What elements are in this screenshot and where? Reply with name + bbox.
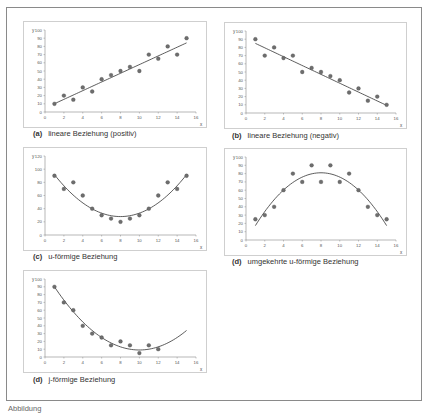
chart-a: 01020304050607080901000246810121416yx [23,21,207,128]
y-tick-label: 90 [238,163,243,168]
x-tick-label: 14 [175,360,180,365]
data-point [147,53,151,57]
data-point [385,217,389,221]
x-tick-label: 16 [194,360,199,365]
data-point [166,180,170,184]
y-tick-label: 40 [238,78,243,83]
y-tick-label: 80 [37,44,42,49]
data-point [109,343,113,347]
y-tick-label: 30 [37,85,42,90]
figure-caption: Abbildung [8,404,41,413]
data-point [128,217,132,221]
data-point [375,213,379,217]
x-tick-label: 6 [100,360,103,365]
x-tick-label: 0 [245,243,248,248]
data-point [253,37,257,41]
data-point [137,213,141,217]
y-tick-label: 10 [238,229,243,234]
x-axis-label: x [400,123,403,128]
y-tick-label: 10 [238,102,243,107]
panel-label-b: (b)lineare Beziehung (negativ) [232,131,339,140]
y-tick-label: 0 [40,233,43,238]
y-tick-label: 60 [238,61,243,66]
x-tick-label: 2 [63,360,66,365]
data-point [338,180,342,184]
data-point [366,99,370,103]
data-point [156,57,160,61]
panel-letter: (c) [33,252,42,261]
y-tick-label: 20 [37,219,42,224]
data-point [109,217,113,221]
y-tick-label: 40 [37,323,42,328]
y-tick-label: 50 [37,316,42,321]
panel-label-d: (d)umgekehrte u-förmige Beziehung [232,257,358,266]
data-point [71,308,75,312]
trend-line [54,43,186,104]
y-tick-label: 70 [37,52,42,57]
y-tick-label: 20 [37,93,42,98]
data-point [175,53,179,57]
panel-letter: (a) [33,129,42,138]
data-point [263,213,267,217]
data-point [119,220,123,224]
y-tick-label: 80 [238,171,243,176]
data-point [185,36,189,40]
x-tick-label: 10 [337,116,342,121]
x-tick-label: 8 [119,238,122,243]
data-point [357,87,361,91]
data-point [300,70,304,74]
x-tick-label: 4 [82,360,85,365]
x-tick-label: 16 [394,243,399,248]
data-point [137,351,141,355]
data-point [119,340,123,344]
y-tick-label: 90 [238,37,243,42]
x-tick-label: 14 [175,238,180,243]
y-tick-label: 20 [238,94,243,99]
data-point [156,194,160,198]
y-tick-label: 10 [37,347,42,352]
chart-j: 01020304050607080901000246810121416yx [23,270,207,373]
data-point [319,180,323,184]
x-tick-label: 14 [175,115,180,120]
panel-title: lineare Beziehung (positiv) [48,129,136,138]
y-tick-label: 60 [37,193,42,198]
y-tick-label: 60 [37,60,42,65]
y-tick-label: 40 [238,204,243,209]
panel-letter: (d) [33,375,43,384]
x-tick-label: 6 [301,116,304,121]
data-point [310,163,314,167]
x-tick-label: 6 [100,238,103,243]
data-point [272,205,276,209]
data-point [62,187,66,191]
panel-title: lineare Beziehung (negativ) [248,131,339,140]
data-point [253,217,257,221]
y-tick-label: 120 [35,154,43,159]
data-point [100,336,104,340]
y-tick-label: 10 [37,101,42,106]
x-axis-label: x [200,245,203,250]
y-tick-label: 0 [241,238,244,243]
x-tick-label: 12 [156,115,161,120]
x-tick-label: 12 [156,360,161,365]
panel-title: umgekehrte u-förmige Beziehung [248,257,359,266]
data-point [156,347,160,351]
x-tick-label: 0 [44,360,47,365]
x-tick-label: 2 [264,243,267,248]
data-point [328,163,332,167]
x-tick-label: 4 [282,116,285,121]
x-tick-label: 8 [320,116,323,121]
data-point [53,174,57,178]
data-point [137,69,141,73]
data-point [81,86,85,90]
x-tick-label: 4 [282,243,285,248]
x-tick-label: 16 [194,238,199,243]
x-tick-label: 6 [100,115,103,120]
x-tick-label: 2 [264,116,267,121]
panel-letter: (d) [232,257,242,266]
data-point [90,332,94,336]
x-tick-label: 0 [44,238,47,243]
x-axis-label: x [400,250,403,255]
data-point [81,194,85,198]
chart-b: 01020304050607080901000246810121416yx [224,22,407,129]
data-point [291,172,295,176]
